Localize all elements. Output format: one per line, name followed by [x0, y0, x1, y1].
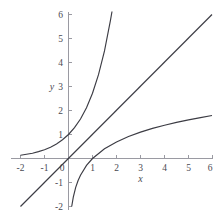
curve-logarithm [72, 116, 212, 207]
x-tick-labels: -2 -1 0 1 2 3 4 5 6 [17, 163, 213, 173]
x-tick-marks [21, 155, 213, 159]
x-tick-label: 3 [138, 163, 143, 173]
function-plot-figure: -2 -1 0 1 2 3 4 5 6 -2 -1 1 2 3 4 5 6 y … [0, 0, 218, 221]
curve-exponential [21, 12, 113, 156]
y-tick-label: 3 [58, 82, 63, 92]
x-tick-label: 2 [114, 163, 119, 173]
y-tick-label: 4 [58, 58, 63, 68]
axes-group [11, 12, 212, 210]
y-tick-label: 1 [58, 130, 63, 140]
y-axis-label: y [49, 81, 55, 92]
x-tick-label: 1 [90, 163, 95, 173]
y-tick-marks [69, 15, 73, 207]
curve-identity-line [21, 15, 213, 207]
plot-canvas: -2 -1 0 1 2 3 4 5 6 -2 -1 1 2 3 4 5 6 y … [0, 0, 218, 221]
x-tick-label: 5 [186, 163, 191, 173]
curves-group [21, 12, 213, 207]
y-tick-label: 2 [58, 106, 63, 116]
y-tick-label: -2 [55, 202, 63, 212]
x-tick-label: 4 [162, 163, 167, 173]
y-tick-label: -1 [55, 178, 63, 188]
x-axis-label: x [137, 173, 143, 184]
x-tick-label: -2 [17, 163, 25, 173]
x-tick-label: 6 [208, 163, 213, 173]
y-tick-label: 6 [58, 10, 63, 20]
y-tick-labels: -2 -1 1 2 3 4 5 6 [55, 10, 63, 212]
y-tick-label: 5 [58, 34, 63, 44]
x-tick-label: -1 [41, 163, 49, 173]
